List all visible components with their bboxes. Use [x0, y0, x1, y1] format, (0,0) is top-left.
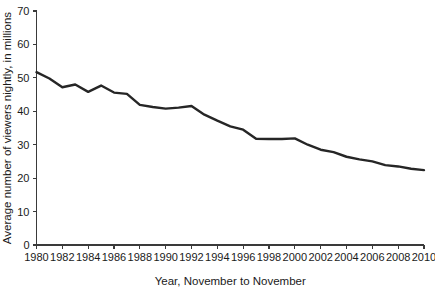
y-tick-label: 20	[17, 172, 29, 184]
data-series-line	[37, 72, 425, 170]
x-tick-label: 1990	[153, 251, 177, 263]
x-tick-label: 2008	[386, 251, 410, 263]
x-tick-label: 1992	[179, 251, 203, 263]
chart-canvas: 010203040506070 198019821984198619881990…	[0, 0, 435, 297]
y-tick-label: 30	[17, 139, 29, 151]
x-tick-label: 2000	[283, 251, 307, 263]
y-axis-ticks: 010203040506070	[17, 5, 36, 251]
line-chart-figure: 010203040506070 198019821984198619881990…	[0, 0, 435, 297]
y-tick-label: 50	[17, 72, 29, 84]
y-axis-title: Average number of viewers nightly, in mi…	[1, 12, 13, 244]
x-tick-label: 1984	[76, 251, 100, 263]
y-tick-label: 70	[17, 5, 29, 17]
x-tick-label: 1996	[231, 251, 255, 263]
y-tick-label: 40	[17, 105, 29, 117]
x-tick-label: 1988	[128, 251, 152, 263]
y-tick-label: 0	[23, 239, 29, 251]
x-axis-title: Year, November to November	[155, 275, 306, 287]
x-tick-label: 1998	[257, 251, 281, 263]
x-tick-label: 2006	[360, 251, 384, 263]
x-tick-label: 1980	[24, 251, 48, 263]
y-tick-label: 60	[17, 38, 29, 50]
x-axis-ticks: 1980198219841986198819901992199419961998…	[24, 245, 435, 263]
x-tick-label: 1982	[50, 251, 74, 263]
x-tick-label: 2002	[308, 251, 332, 263]
x-tick-label: 1994	[205, 251, 229, 263]
x-tick-label: 2004	[334, 251, 358, 263]
y-tick-label: 10	[17, 206, 29, 218]
x-tick-label: 1986	[102, 251, 126, 263]
x-tick-label: 2010	[412, 251, 435, 263]
